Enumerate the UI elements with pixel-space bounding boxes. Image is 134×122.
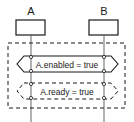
attach-point-icon bbox=[102, 55, 105, 58]
attach-point-icon bbox=[102, 96, 105, 99]
condition-label-enabled: A.enabled = true bbox=[36, 60, 99, 70]
condition-enabled[interactable]: A.enabled = true bbox=[17, 55, 118, 72]
instance-label-a: A bbox=[27, 5, 35, 17]
instance-box-b[interactable] bbox=[89, 20, 118, 35]
instance-box-a[interactable] bbox=[16, 20, 45, 35]
attach-point-icon bbox=[29, 82, 32, 85]
attach-point-icon bbox=[29, 96, 32, 99]
sequence-diagram: A B A.enabled = true A.ready = true bbox=[0, 0, 134, 122]
attach-point-icon bbox=[29, 69, 32, 72]
condition-label-ready: A.ready = true bbox=[40, 87, 94, 97]
condition-ready[interactable]: A.ready = true bbox=[17, 82, 118, 99]
attach-point-icon bbox=[29, 55, 32, 58]
instance-label-b: B bbox=[100, 5, 107, 17]
attach-point-icon bbox=[102, 69, 105, 72]
attach-point-icon bbox=[102, 82, 105, 85]
